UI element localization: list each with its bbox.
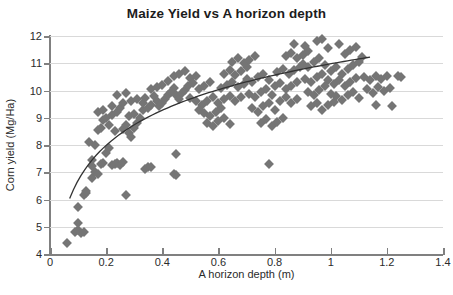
x-axis-tick-label: 0.8 (255, 256, 295, 268)
x-axis-tick-label: 0.6 (198, 256, 238, 268)
x-axis-tick-mark (443, 248, 445, 255)
gridline (50, 227, 443, 228)
y-axis-tick-label: 6 (20, 194, 42, 206)
x-axis-title: A horizon depth (m) (50, 268, 443, 280)
chart-title: Maize Yield vs A horizon depth (0, 6, 453, 21)
y-axis-title: Corn yield (Mg/Ha) (4, 36, 20, 254)
gridline (50, 36, 443, 37)
scatter-point (354, 93, 364, 103)
gridline (50, 172, 443, 173)
scatter-point (171, 149, 181, 159)
scatter-point (371, 101, 381, 111)
x-axis-tick-label: 0.4 (142, 256, 182, 268)
x-axis-tick-label: 1.2 (367, 256, 407, 268)
scatter-point (62, 238, 72, 248)
x-axis-tick-label: 0.2 (86, 256, 126, 268)
scatter-point (334, 39, 344, 49)
x-axis-tick-label: 1 (311, 256, 351, 268)
y-axis-tick-label: 8 (20, 139, 42, 151)
gridline (50, 200, 443, 201)
scatter-point (121, 190, 131, 200)
scatter-point (264, 159, 274, 169)
scatter-point (323, 43, 333, 53)
chart-container: Maize Yield vs A horizon depth Corn yiel… (0, 0, 453, 295)
y-axis-tick-label: 7 (20, 166, 42, 178)
y-axis-tick-label: 9 (20, 112, 42, 124)
scatter-point (126, 132, 136, 142)
x-axis-tick-label: 0 (30, 256, 70, 268)
scatter-point (270, 105, 280, 115)
y-axis-tick-label: 11 (20, 57, 42, 69)
scatter-point (388, 101, 398, 111)
y-axis-tick-label: 10 (20, 85, 42, 97)
y-axis-tick-label: 12 (20, 30, 42, 42)
plot-area (50, 36, 443, 254)
x-axis-tick-label: 1.4 (423, 256, 453, 268)
y-axis-tick-label: 5 (20, 221, 42, 233)
scatter-point (73, 202, 83, 212)
